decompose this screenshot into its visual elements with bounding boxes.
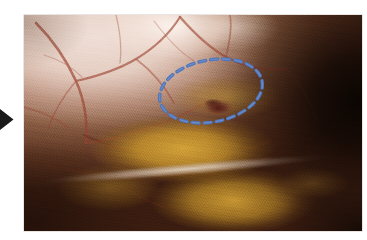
- figure-canvas: [0, 0, 367, 240]
- intraoperative-laparoscopic-view: [24, 15, 362, 231]
- tissue-speckle: [24, 15, 362, 231]
- pointer-arrow-icon: [0, 108, 14, 131]
- pointer-arrow: [0, 108, 14, 131]
